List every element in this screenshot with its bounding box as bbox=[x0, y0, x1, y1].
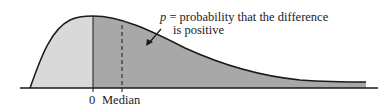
positive-region bbox=[93, 16, 366, 88]
annotation-line1: p = probability that the difference bbox=[159, 10, 329, 24]
annotation-symbol: p bbox=[159, 10, 166, 24]
annotation-line2: is positive bbox=[173, 23, 224, 37]
zero-label: 0 bbox=[89, 93, 95, 107]
distribution-diagram: p = probability that the difference is p… bbox=[0, 0, 390, 112]
median-label: Median bbox=[102, 93, 141, 107]
